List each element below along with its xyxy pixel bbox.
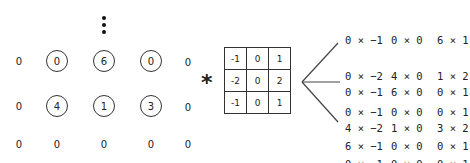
product-term: 0 × 0: [391, 140, 437, 152]
product-row: 6 × −1 0 × 0 0 × 1: [345, 140, 470, 152]
kernel-cell: 2: [269, 70, 291, 92]
padding-zero: 0: [9, 56, 29, 68]
kernel-row: -1 0 1: [225, 48, 291, 70]
product-term: 0 × −1: [345, 86, 391, 98]
padding-zero: 0: [141, 139, 161, 151]
padding-zero: 0: [94, 139, 114, 151]
product-term: 6 × 0: [391, 86, 437, 98]
circled-value: 0: [46, 50, 68, 72]
padding-zero: 0: [9, 139, 29, 151]
product-term: 0 × 1: [437, 86, 470, 98]
product-term: 6 × −1: [345, 140, 391, 152]
kernel-row: -2 0 2: [225, 70, 291, 92]
product-row: 0 × −1 6 × 0 0 × 1: [345, 86, 470, 98]
circled-value: 4: [46, 95, 68, 117]
circled-value: 1: [93, 95, 115, 117]
product-term: 0 × −1: [345, 34, 391, 46]
circled-value: 0: [140, 50, 162, 72]
kernel-cell: -1: [225, 48, 247, 70]
product-row: 0 × −1 0 × 0 6 × 1: [345, 34, 470, 46]
kernel-cell: 1: [269, 92, 291, 114]
kernel-row: -1 0 1: [225, 92, 291, 114]
convolution-operator: *: [201, 72, 213, 94]
kernel-cell: 0: [247, 70, 269, 92]
circled-value: 3: [140, 95, 162, 117]
product-term: 0 × 0: [391, 34, 437, 46]
kernel-cell: -1: [225, 92, 247, 114]
product-term: 6 × 1: [437, 34, 470, 46]
padding-zero: 0: [178, 102, 198, 114]
padding-zero: 0: [178, 57, 198, 69]
kernel-cell: 1: [269, 48, 291, 70]
kernel-cell: 0: [247, 48, 269, 70]
kernel-cell: -2: [225, 70, 247, 92]
padding-zero: 0: [178, 139, 198, 151]
product-block: 6 × −1 0 × 0 0 × 1 1 × −2 3 × 0 0 × 2 0 …: [345, 116, 470, 163]
kernel-cell: 0: [247, 92, 269, 114]
sobel-kernel: -1 0 1 -2 0 2 -1 0 1: [224, 47, 291, 114]
circled-value: 6: [93, 50, 115, 72]
vertical-ellipsis: [102, 16, 106, 34]
padding-zero: 0: [9, 101, 29, 113]
padding-zero: 0: [47, 139, 67, 151]
product-term: 0 × 1: [437, 140, 470, 152]
